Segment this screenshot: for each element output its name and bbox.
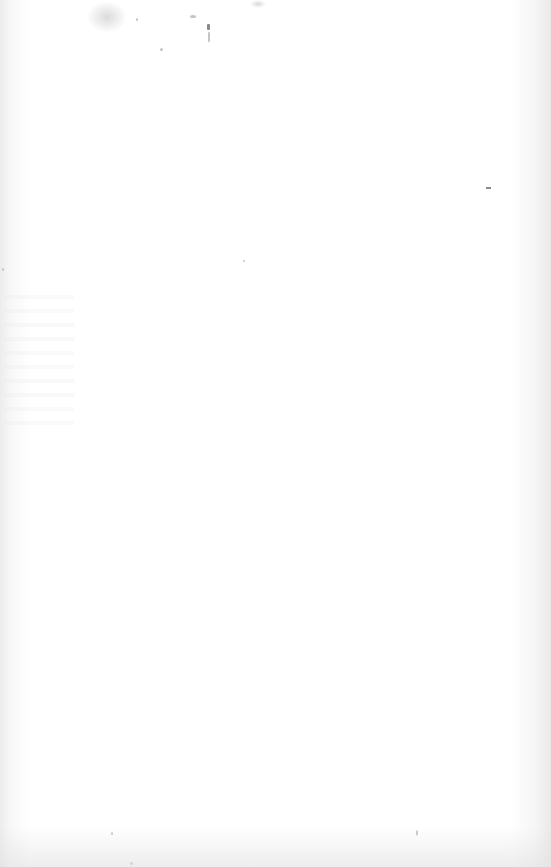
speck bbox=[136, 18, 138, 21]
show-through-text bbox=[4, 295, 74, 425]
speck bbox=[130, 862, 133, 865]
speck bbox=[111, 832, 113, 835]
paper-stain bbox=[88, 2, 126, 32]
speck bbox=[190, 15, 196, 18]
speck bbox=[243, 260, 245, 262]
blank-page bbox=[0, 0, 551, 867]
speck bbox=[2, 268, 4, 271]
speck bbox=[416, 830, 418, 836]
speck bbox=[160, 48, 163, 51]
speck bbox=[208, 32, 210, 42]
paper-stain bbox=[250, 0, 266, 8]
speck bbox=[207, 24, 210, 30]
speck bbox=[486, 187, 491, 189]
